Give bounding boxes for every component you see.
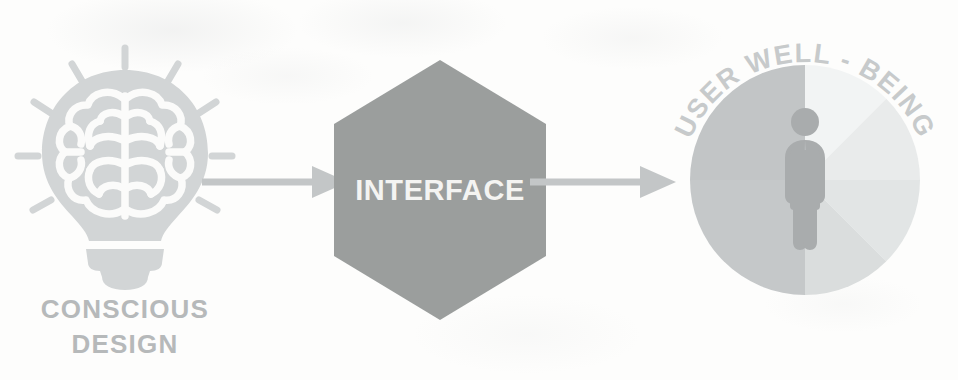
conscious-design-label: CONSCIOUS DESIGN [10,292,240,361]
wellbeing-wheel: USER WELL - BEING [660,0,958,320]
conscious-design-label-line1: CONSCIOUS [10,292,240,327]
conscious-design-label-line2: DESIGN [10,327,240,362]
diagram-canvas: CONSCIOUS DESIGN INTERFACE [0,0,958,380]
arrow-interface-to-wellbeing [528,160,678,204]
hexagon-shape-icon [332,58,548,322]
node-user-wellbeing[interactable]: USER WELL - BEING [660,0,958,320]
node-conscious-design[interactable]: CONSCIOUS DESIGN [10,40,240,370]
node-interface[interactable]: INTERFACE [332,58,548,322]
arrow-conscious-to-interface [200,160,350,204]
